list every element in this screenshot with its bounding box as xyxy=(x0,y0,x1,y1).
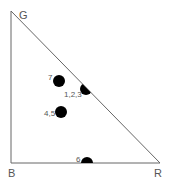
vertex-label-b: B xyxy=(8,167,15,179)
data-point-dot xyxy=(81,157,93,169)
data-point-label: 7 xyxy=(48,73,53,82)
vertex-label-r: R xyxy=(154,167,162,179)
data-point-label: 6 xyxy=(76,155,81,164)
data-point-dot xyxy=(55,106,67,118)
data-point-dot xyxy=(53,75,65,87)
vertex-label-g: G xyxy=(19,9,28,21)
data-point-dot xyxy=(80,83,92,95)
color-triangle-diagram: GBR71,2,34,56 xyxy=(0,0,171,184)
data-point-label: 1,2,3 xyxy=(64,90,82,99)
data-point-label: 4,5 xyxy=(44,109,56,118)
